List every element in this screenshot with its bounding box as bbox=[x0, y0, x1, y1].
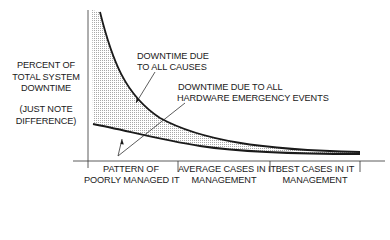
category-poorly-managed: PATTERN OF POORLY MANAGED IT bbox=[84, 164, 178, 186]
category-average-cases: AVERAGE CASES IN IT MANAGEMENT bbox=[178, 164, 270, 186]
category-best-cases: BEST CASES IN IT MANAGEMENT bbox=[270, 164, 360, 186]
y-axis-note: (JUST NOTE DIFFERENCE) bbox=[6, 104, 86, 127]
leader-all-causes bbox=[136, 72, 155, 103]
y-axis-label: PERCENT OF TOTAL SYSTEM DOWNTIME bbox=[6, 60, 86, 95]
label-hardware-events: DOWNTIME DUE TO ALL HARDWARE EMERGENCY E… bbox=[177, 82, 329, 104]
label-all-causes: DOWNTIME DUE TO ALL CAUSES bbox=[137, 51, 209, 73]
